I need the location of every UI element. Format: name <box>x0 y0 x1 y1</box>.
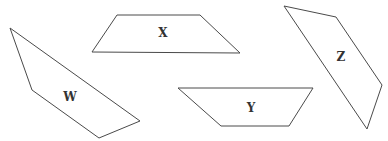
quadrilateral-y <box>178 88 313 126</box>
shape-x: X <box>92 15 240 53</box>
shapes-diagram: W X Y Z <box>0 0 388 141</box>
label-z: Z <box>337 50 346 64</box>
label-w: W <box>62 90 77 104</box>
shape-y: Y <box>178 88 313 126</box>
label-y: Y <box>246 101 256 115</box>
label-x: X <box>158 26 168 40</box>
